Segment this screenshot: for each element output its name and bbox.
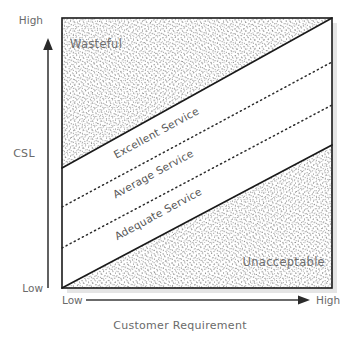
y-axis-high-label: High: [19, 14, 43, 26]
y-axis-title: CSL: [13, 147, 35, 160]
region-label-unacceptable: Unacceptable: [243, 255, 326, 269]
x-axis-title: Customer Requirement: [113, 319, 247, 332]
x-axis-high-label: High: [316, 294, 340, 306]
diagram-canvas: High Low CSL Low High Customer Requireme…: [0, 0, 353, 342]
csl-customer-requirement-diagram: High Low CSL Low High Customer Requireme…: [0, 0, 353, 342]
y-axis-low-label: Low: [22, 282, 43, 294]
x-axis-low-label: Low: [62, 294, 83, 306]
x-axis-arrow: [86, 295, 310, 304]
y-axis-arrow: [43, 38, 53, 288]
region-label-wasteful: Wasteful: [70, 37, 122, 51]
